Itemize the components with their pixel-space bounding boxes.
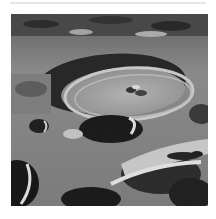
lunar-surface-illustration bbox=[11, 14, 208, 206]
lunar-crater-photo bbox=[11, 14, 208, 206]
cropped-caption-text bbox=[10, 0, 206, 5]
